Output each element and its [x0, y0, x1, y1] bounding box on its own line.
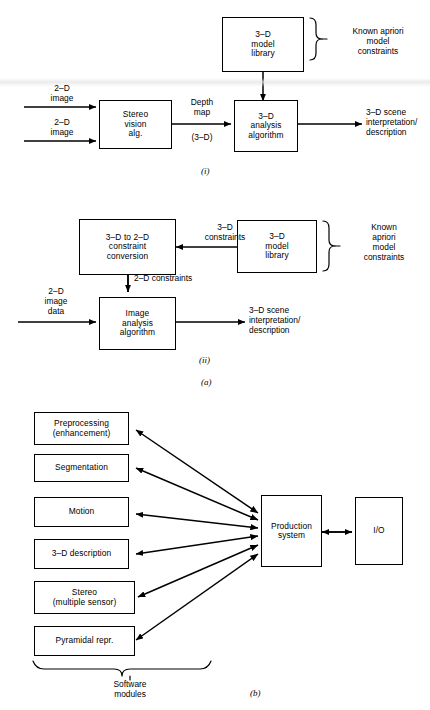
label-output-3d-scene-i: 3–D scene interpretation/ description	[366, 108, 430, 138]
box-image-analysis-algorithm: Image analysis algorithm	[99, 297, 176, 350]
module-box-segmentation: Segmentation	[34, 454, 129, 482]
box-stereo-vision-alg: Stereo vision alg.	[99, 100, 172, 149]
box-io: I/O	[355, 497, 403, 565]
box-stereo-vision-alg-label: Stereo vision alg.	[123, 110, 148, 138]
module-box-segmentation-label: Segmentation	[55, 463, 108, 472]
caption-a: (a)	[201, 377, 212, 387]
brace-label-known-apriori-i: Known apriori model constraints	[330, 27, 426, 57]
box-production-system-label: Production system	[271, 522, 312, 541]
label-output-3d-scene-ii: 3–D scene interpretation/ description	[249, 306, 329, 336]
box-model-library-i-label: 3–D model library	[251, 30, 275, 58]
module-box-motion-label: Motion	[69, 507, 95, 516]
caption-i: (i)	[201, 166, 210, 176]
label-depth-map: Depth map	[176, 98, 228, 118]
module-box-stereo: Stereo (multiple sensor)	[34, 581, 135, 614]
caption-b: (b)	[250, 688, 261, 698]
box-image-analysis-algorithm-label: Image analysis algorithm	[120, 309, 155, 337]
module-box-motion: Motion	[34, 497, 129, 527]
module-box-3d-description-label: 3–D description	[52, 549, 112, 558]
box-model-library-i: 3–D model library	[222, 17, 304, 72]
caption-ii: (ii)	[199, 355, 210, 365]
label-input-2d-image-top: 2–D image	[40, 84, 84, 104]
box-model-library-ii-label: 3–D model library	[265, 232, 289, 260]
page-header-faint	[2, 0, 122, 7]
box-3d-analysis-algorithm: 3–D analysis algorithm	[234, 100, 298, 152]
label-input-2d-image-bottom: 2–D image	[40, 118, 84, 138]
label-depth-map-sub: (3–D)	[176, 133, 228, 143]
label-input-2d-image-data: 2–D image data	[33, 287, 79, 317]
figure-canvas: 3–D model library Known apriori model co…	[0, 0, 430, 710]
box-3d-to-2d-conversion-label: 3–D to 2–D constraint conversion	[106, 233, 149, 261]
label-3d-constraints: 3–D constraints	[184, 223, 266, 243]
module-box-stereo-label: Stereo (multiple sensor)	[53, 588, 117, 607]
box-3d-to-2d-conversion: 3–D to 2–D constraint conversion	[79, 219, 176, 275]
label-2d-constraints: 2–D constraints	[134, 274, 234, 284]
brace-label-known-apriori-ii: Known apriori model constraints	[344, 223, 424, 263]
module-box-pyramidal-repr-label: Pyramidal repr.	[56, 636, 114, 645]
module-box-3d-description: 3–D description	[34, 539, 129, 569]
brace-label-software-modules: Software modules	[95, 680, 165, 700]
box-io-label: I/O	[373, 526, 384, 535]
module-box-preprocessing: Preprocessing (enhancement)	[34, 412, 129, 445]
box-production-system: Production system	[261, 495, 322, 567]
module-box-pyramidal-repr: Pyramidal repr.	[34, 626, 135, 656]
module-box-preprocessing-label: Preprocessing (enhancement)	[53, 419, 111, 438]
box-3d-analysis-algorithm-label: 3–D analysis algorithm	[248, 112, 283, 140]
